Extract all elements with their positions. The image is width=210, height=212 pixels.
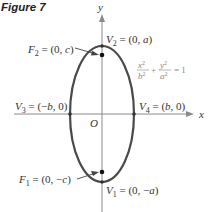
x-axis-label: x	[198, 108, 204, 120]
svg-text:x2: x2	[137, 60, 145, 70]
f2-label: F2 = (0, c)	[27, 43, 74, 58]
focus-f1	[100, 170, 105, 175]
svg-text:+: +	[151, 65, 156, 75]
focus-f2	[100, 53, 105, 58]
y-axis-arrow-icon	[99, 14, 105, 22]
svg-text:a2: a2	[160, 71, 168, 81]
v3-label: V3 = (−b, 0)	[15, 100, 68, 115]
v1-label: V1 = (0, −a)	[106, 184, 159, 199]
vertex-v4	[132, 112, 136, 116]
svg-text:y2: y2	[159, 60, 167, 70]
x-axis-arrow-icon	[186, 111, 194, 117]
vertex-v1	[100, 180, 104, 184]
v4-label: V4 = (b, 0)	[139, 100, 186, 115]
origin-label: O	[90, 117, 98, 129]
y-axis-label: y	[97, 1, 103, 13]
svg-text:b2: b2	[138, 71, 146, 81]
ellipse-diagram: y x O F2 = (0, c) V2 = (0, a) V3 = (−b, …	[0, 0, 210, 212]
vertex-v2	[100, 44, 104, 48]
svg-text:= 1: = 1	[174, 65, 186, 75]
ellipse-equation: x2 b2 + y2 a2 = 1	[137, 60, 186, 81]
f1-label: F1 = (0, −c)	[18, 173, 71, 188]
vertex-v3	[68, 112, 72, 116]
v2-label: V2 = (0, a)	[106, 33, 153, 48]
